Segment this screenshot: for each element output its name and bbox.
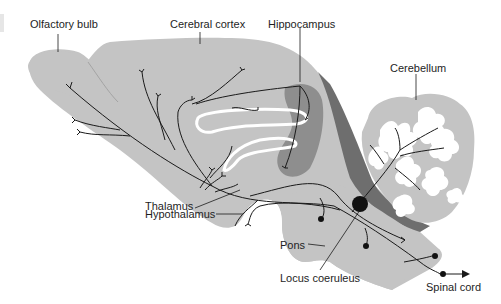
brain-illustration <box>0 0 501 304</box>
terminal-dot <box>363 243 369 249</box>
label-olfactory-bulb: Olfactory bulb <box>30 18 98 30</box>
terminal-dot <box>440 271 446 277</box>
label-hippocampus: Hippocampus <box>268 18 335 30</box>
brain-diagram: Olfactory bulb Cerebral cortex Hippocamp… <box>0 0 501 304</box>
label-locus-coeruleus: Locus coeruleus <box>280 272 360 284</box>
spinal-arrow-icon <box>462 270 470 278</box>
terminal-dot <box>432 253 438 259</box>
locus-coeruleus-nucleus <box>352 196 368 212</box>
terminal-dot <box>318 216 324 222</box>
label-cerebellum: Cerebellum <box>390 62 446 74</box>
label-hypothalamus: Hypothalamus <box>145 208 215 220</box>
label-pons: Pons <box>280 239 305 251</box>
label-spinal-cord: Spinal cord <box>426 281 481 293</box>
label-cerebral-cortex: Cerebral cortex <box>170 18 245 30</box>
